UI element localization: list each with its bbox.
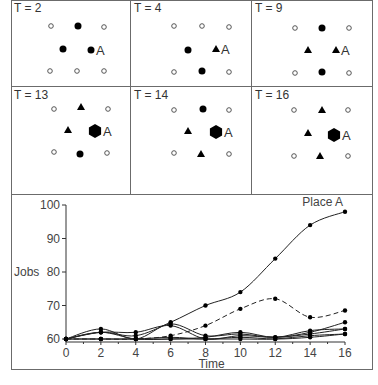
x-axis-label: Time <box>198 357 225 370</box>
open-circle-icon <box>200 24 205 29</box>
triangle-icon <box>318 106 326 113</box>
snapshot-panel: T = 2A <box>11 0 131 87</box>
hexagon-icon <box>210 125 222 139</box>
place-label: A <box>224 125 233 140</box>
data-point <box>168 335 172 339</box>
y-tick-label: 80 <box>47 265 61 279</box>
data-point <box>273 337 277 341</box>
panel-places: A <box>131 0 252 87</box>
snapshot-panel: T = 9A <box>252 0 373 87</box>
open-circle-icon <box>346 154 351 159</box>
data-point <box>99 330 103 334</box>
open-circle-icon <box>227 152 232 157</box>
x-tick-label: 2 <box>98 346 105 360</box>
data-point <box>238 290 242 294</box>
open-circle-icon <box>48 69 53 74</box>
data-point <box>238 335 242 339</box>
open-circle-icon <box>172 70 177 75</box>
data-point <box>273 256 277 260</box>
open-circle-icon <box>172 108 177 113</box>
filled-circle-icon <box>319 25 326 32</box>
x-tick-label: 10 <box>234 346 248 360</box>
open-circle-icon <box>49 24 54 29</box>
y-tick-label: 90 <box>47 232 61 246</box>
hexagon-icon <box>328 128 340 142</box>
open-circle-icon <box>227 108 232 113</box>
filled-circle-icon <box>60 46 67 53</box>
data-point <box>343 327 347 331</box>
x-tick-label: 14 <box>303 346 317 360</box>
open-circle-icon <box>172 151 177 156</box>
series-line <box>66 212 345 339</box>
data-point <box>308 328 312 332</box>
triangle-icon <box>304 46 312 53</box>
open-circle-icon <box>102 69 107 74</box>
open-circle-icon <box>52 150 57 155</box>
filled-circle-icon <box>75 23 82 30</box>
y-tick-label: 70 <box>47 299 61 313</box>
filled-circle-icon <box>88 47 95 54</box>
data-point <box>134 330 138 334</box>
y-axis-label: Jobs <box>14 265 39 279</box>
place-label: A <box>221 42 230 57</box>
open-circle-icon <box>292 154 297 159</box>
data-point <box>343 320 347 324</box>
hexagon-icon <box>89 124 101 138</box>
filled-circle-icon <box>200 106 207 113</box>
data-point <box>99 337 103 341</box>
place-label: A <box>341 43 350 58</box>
place-label: A <box>103 124 112 139</box>
open-circle-icon <box>52 107 57 112</box>
filled-circle-icon <box>77 151 84 158</box>
data-point <box>203 323 207 327</box>
x-tick-label: 6 <box>167 346 174 360</box>
y-tick-label: 100 <box>40 198 60 212</box>
triangle-icon <box>184 127 192 134</box>
data-point <box>168 323 172 327</box>
open-circle-icon <box>105 151 110 156</box>
jobs-line-chart: 607080901000246810121416TimeJobsPlace A <box>11 195 373 370</box>
x-tick-label: 0 <box>63 346 70 360</box>
open-circle-icon <box>227 70 232 75</box>
open-circle-icon <box>102 25 107 30</box>
open-circle-icon <box>293 71 298 76</box>
data-point <box>203 303 207 307</box>
data-point <box>343 332 347 336</box>
x-tick-label: 12 <box>269 346 283 360</box>
panel-places: A <box>252 87 373 195</box>
triangle-icon <box>332 46 340 53</box>
snapshot-panel: T = 13A <box>11 87 131 195</box>
data-point <box>273 297 277 301</box>
filled-circle-icon <box>185 47 192 54</box>
triangle-icon <box>77 103 85 110</box>
open-circle-icon <box>227 25 232 30</box>
open-circle-icon <box>292 108 297 113</box>
open-circle-icon <box>347 26 352 31</box>
data-point <box>308 223 312 227</box>
place-label: A <box>96 43 105 58</box>
triangle-icon <box>304 129 312 136</box>
panel-places: A <box>131 87 252 195</box>
panel-places: A <box>11 0 131 87</box>
y-tick-label: 60 <box>47 332 61 346</box>
data-point <box>203 337 207 341</box>
data-point <box>64 337 68 341</box>
open-circle-icon <box>75 69 80 74</box>
data-point <box>343 308 347 312</box>
data-point <box>308 315 312 319</box>
panel-places: A <box>11 87 131 195</box>
data-point <box>238 307 242 311</box>
x-tick-label: 16 <box>338 346 352 360</box>
data-point <box>343 210 347 214</box>
open-circle-icon <box>347 71 352 76</box>
open-circle-icon <box>172 24 177 29</box>
x-tick-label: 4 <box>132 346 139 360</box>
snapshot-panel: T = 16A <box>252 87 373 195</box>
place-a-annotation: Place A <box>302 195 343 209</box>
triangle-icon <box>316 152 324 159</box>
snapshot-panel: T = 14A <box>131 87 252 195</box>
snapshot-panel: T = 4A <box>131 0 252 87</box>
data-point <box>134 337 138 341</box>
data-point <box>308 335 312 339</box>
panel-places: A <box>252 0 373 87</box>
